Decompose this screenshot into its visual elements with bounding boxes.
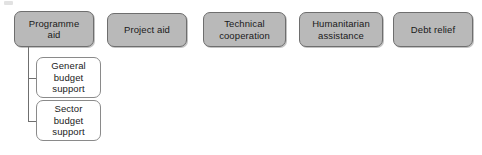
node-project-aid-label: Project aid: [124, 24, 170, 36]
node-debt-relief[interactable]: Debt relief: [393, 12, 473, 47]
scan-artifact: [4, 1, 13, 5]
connector-trunk: [28, 47, 29, 121]
node-programme-aid[interactable]: Programme aid: [14, 11, 94, 47]
node-sector-budget-support-label: Sector budget support: [52, 103, 84, 138]
diagram-canvas: Programme aid Project aid Technical coop…: [0, 0, 482, 155]
node-programme-aid-label: Programme aid: [29, 18, 80, 41]
node-sector-budget-support[interactable]: Sector budget support: [36, 100, 101, 141]
node-technical-cooperation-label: Technical cooperation: [219, 18, 270, 41]
node-project-aid[interactable]: Project aid: [107, 13, 187, 47]
node-debt-relief-label: Debt relief: [411, 24, 455, 36]
node-general-budget-support-label: General budget support: [51, 60, 86, 95]
node-humanitarian-assistance[interactable]: Humanitarian assistance: [299, 12, 383, 47]
node-humanitarian-assistance-label: Humanitarian assistance: [312, 18, 370, 41]
node-general-budget-support[interactable]: General budget support: [36, 57, 101, 98]
node-technical-cooperation[interactable]: Technical cooperation: [203, 12, 286, 47]
